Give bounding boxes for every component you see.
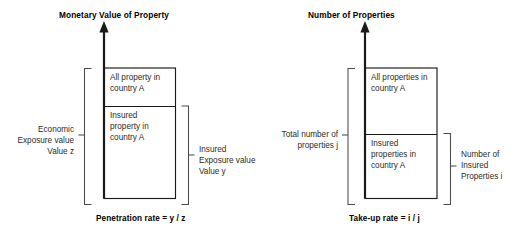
diagram-vector-layer xyxy=(0,0,518,237)
penetration-caption: Penetration rate = y / z xyxy=(96,214,186,223)
takeup-right-bracket xyxy=(444,134,457,205)
takeup-right-bracket-label: Number of Insured Properties i xyxy=(461,149,517,183)
penetration-axis-title: Monetary Value of Property xyxy=(59,10,169,20)
diagram-canvas: Monetary Value of Property All property … xyxy=(0,0,518,237)
penetration-left-bracket xyxy=(79,69,92,205)
penetration-left-bracket-label: Economic Exposure value Value z xyxy=(4,124,74,158)
takeup-left-bracket-label: Total number of properties j xyxy=(252,129,338,151)
penetration-right-bracket xyxy=(182,106,195,205)
takeup-segment-all-properties-label: All properties in country A xyxy=(371,72,439,94)
takeup-caption: Take-up rate = i / j xyxy=(349,214,420,223)
penetration-segment-insured-property-label: Insured property in country A xyxy=(110,110,176,144)
up-arrow-icon xyxy=(360,21,369,33)
takeup-left-bracket xyxy=(342,69,355,205)
up-arrow-icon xyxy=(99,21,108,33)
takeup-segment-insured-properties-label: Insured properties in country A xyxy=(371,138,439,172)
takeup-axis-title: Number of Properties xyxy=(308,10,395,20)
penetration-segment-all-property-label: All property in country A xyxy=(110,72,176,94)
panel-takeup-graphics xyxy=(342,21,457,205)
